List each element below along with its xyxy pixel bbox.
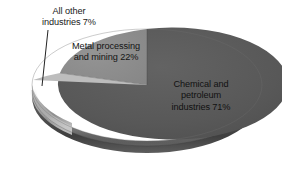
pie-label-all-other-industries: All other industries 7% — [26, 6, 112, 29]
pie-label-metal-processing-and-mining: Metal processing and mining 22% — [58, 41, 154, 64]
pie-label-chemical-and-petroleum-industries: Chemical and petroleum industries 71% — [158, 79, 244, 113]
pie-chart-figure: All other industries 7% Metal processing… — [0, 0, 282, 171]
